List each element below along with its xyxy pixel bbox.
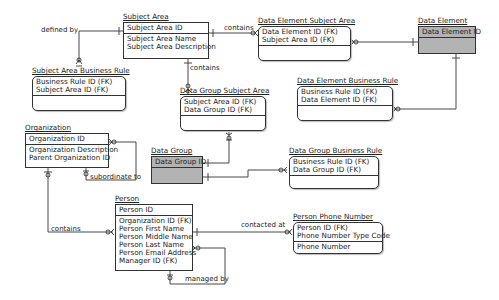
entity-organization[interactable]: Organization Organization ID Organizatio… [25, 133, 109, 168]
rel-label-subordinate-to: subordinate to [90, 173, 141, 181]
entity-data-element-business-rule[interactable]: Data Element Business Rule Business Rule… [297, 86, 393, 121]
entity-title: Data Group Subject Area [180, 86, 269, 95]
pk-attribute: Data Group ID (FK) [293, 166, 375, 174]
pk-attribute: Phone Number Type Code [297, 232, 379, 240]
rel-label-contains-sa-dgsa: contains [190, 64, 220, 72]
pk-attribute: Data Element ID [422, 28, 472, 36]
rel-label-contains-org-person: contains [51, 225, 81, 233]
attribute: Parent Organization ID [29, 154, 105, 162]
pk-attribute: Subject Area ID [127, 24, 205, 32]
entity-person-phone-number[interactable]: Person Phone Number Person ID (FK) Phone… [293, 222, 383, 254]
entity-data-element[interactable]: Data Element Data Element ID [418, 26, 476, 54]
pk-attribute: Subject Area ID (FK) [36, 86, 122, 94]
rel-label-contains-sa-desa: contains [224, 24, 254, 32]
entity-title: Data Element Business Rule [297, 76, 398, 85]
rel-label-defined-by: defined by [41, 26, 78, 34]
entity-data-group-subject-area[interactable]: Data Group Subject Area Subject Area ID … [180, 96, 266, 131]
entity-title: Data Group Business Rule [289, 146, 382, 155]
attribute: Manager ID (FK) [119, 257, 189, 265]
pk-attribute: Data Element ID (FK) [301, 96, 389, 104]
pk-attribute: Person ID [119, 206, 189, 214]
entity-subject-area-business-rule[interactable]: Subject Area Business Rule Business Rule… [32, 76, 126, 111]
pk-attribute: Subject Area ID (FK) [262, 36, 347, 44]
entity-title: Person [115, 194, 139, 203]
entity-title: Organization [25, 123, 71, 132]
attribute: Phone Number [297, 243, 379, 251]
pk-attribute: Organization ID [29, 135, 105, 143]
rel-label-managed-by: managed by [185, 275, 229, 283]
pk-attribute: Data Group ID [155, 158, 199, 166]
pk-attribute: Data Group ID (FK) [184, 106, 262, 114]
entity-title: Person Phone Number [293, 212, 373, 221]
entity-data-group-business-rule[interactable]: Data Group Business Rule Business Rule I… [289, 156, 379, 189]
entity-data-element-subject-area[interactable]: Data Element Subject Area Data Element I… [258, 26, 351, 61]
attribute: Subject Area Description [127, 43, 205, 51]
entity-title: Subject Area Business Rule [32, 66, 130, 75]
entity-person[interactable]: Person Person ID Organization ID (FK) Pe… [115, 204, 193, 271]
entity-title: Subject Area [123, 12, 169, 21]
entity-title: Data Element Subject Area [258, 16, 355, 25]
rel-label-contacted-at: contacted at [241, 221, 285, 229]
entity-data-group[interactable]: Data Group Data Group ID [151, 156, 203, 184]
entity-title: Data Group [151, 146, 192, 155]
entity-subject-area[interactable]: Subject Area Subject Area ID Subject Are… [123, 22, 209, 59]
entity-title: Data Element [418, 16, 467, 25]
